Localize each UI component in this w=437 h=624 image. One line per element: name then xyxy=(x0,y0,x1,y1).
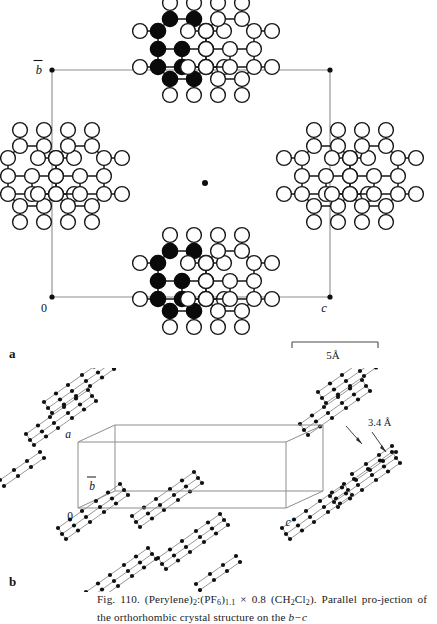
axis-label-b-text-panel-b: b xyxy=(89,480,95,492)
caption-perylene: (Perylene) xyxy=(145,593,193,605)
panel-letter-b: b xyxy=(9,574,16,590)
caption-fig-number: Fig. 110. xyxy=(97,593,140,605)
stack-outer-right-lower xyxy=(328,450,402,509)
scale-bar: 5Å xyxy=(292,342,378,361)
stacking-distance-annotation: 3.4 Å xyxy=(346,417,392,452)
panel-a-parallel-projection: b 0 c 5Å xyxy=(0,0,437,368)
caption-ch2cl2-open: (CH xyxy=(271,593,291,605)
panel-b-perspective-packing: 3.4 Å a b 0 c xyxy=(0,368,437,592)
stack-centre-upper xyxy=(130,470,204,529)
axis-label-c-panel-a: c xyxy=(321,301,327,315)
cell-centre-dot xyxy=(202,180,208,186)
axis-label-b-panel-b: b xyxy=(87,477,96,492)
stacking-distance-label: 3.4 Å xyxy=(368,417,392,428)
stack-outer-far-left xyxy=(0,450,46,488)
caption-pf6-open: (PF xyxy=(200,593,217,605)
stack-outer-bottom-mid xyxy=(194,554,242,592)
axis-label-b-text: b xyxy=(36,63,42,77)
axis-label-c-panel-b: c xyxy=(285,516,290,528)
caption-times-factor: × 0.8 xyxy=(240,593,271,605)
caption-ch2cl2-close: ). xyxy=(310,593,317,605)
caption-pf6-stoichiometry: 1.1 xyxy=(225,598,235,607)
stack-inside-centre xyxy=(156,512,230,571)
axis-label-a-panel-b: a xyxy=(65,428,71,440)
unit-cell-box-panel-b xyxy=(78,425,323,508)
stack-outer-left-upper xyxy=(42,368,116,415)
axis-label-b-panel-a: b xyxy=(34,61,43,78)
figure-caption: Fig. 110. (Perylene)2:(PF6)1.1 × 0.8 (CH… xyxy=(97,592,427,624)
panel-letter-a: a xyxy=(9,346,16,362)
stack-outer-bottom-left xyxy=(84,546,158,592)
stack-outer-top-right xyxy=(298,378,372,437)
caption-axis-plane: b−c xyxy=(288,611,307,623)
caption-cl: Cl xyxy=(295,593,306,605)
origin-label-panel-b: 0 xyxy=(67,510,73,522)
origin-label-panel-a: 0 xyxy=(41,301,47,315)
scale-bar-label: 5Å xyxy=(326,349,340,361)
figure-110: b 0 c 5Å xyxy=(0,0,437,624)
